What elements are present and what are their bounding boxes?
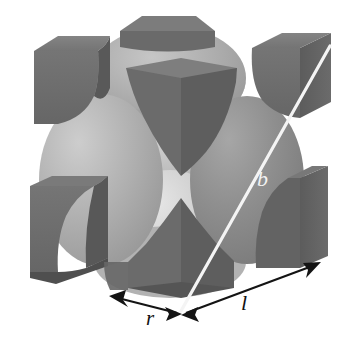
dimension-label-b: b	[257, 168, 268, 190]
corner-wedge-middle-right-side	[300, 166, 328, 268]
corner-wedge-bottom-left-front-face	[104, 262, 128, 290]
dimension-label-l: l	[241, 292, 247, 314]
dimension-label-r: r	[146, 308, 154, 329]
corner-wedge-top-center-back	[120, 16, 215, 52]
corner-wedge-top-left-top	[34, 36, 110, 51]
dimension-arrow-l-head-right	[303, 262, 321, 278]
dimension-arrow-r-head-left	[109, 290, 128, 307]
dimension-arrow-r-head-right	[165, 307, 182, 321]
corner-wedge-bottom-left-front	[104, 262, 128, 290]
unit-cell-scene	[0, 0, 341, 339]
corner-wedge-top-center-front	[120, 31, 215, 52]
unit-cell-figure: r l b	[0, 0, 341, 339]
corner-wedge-top-center-top	[120, 16, 215, 31]
